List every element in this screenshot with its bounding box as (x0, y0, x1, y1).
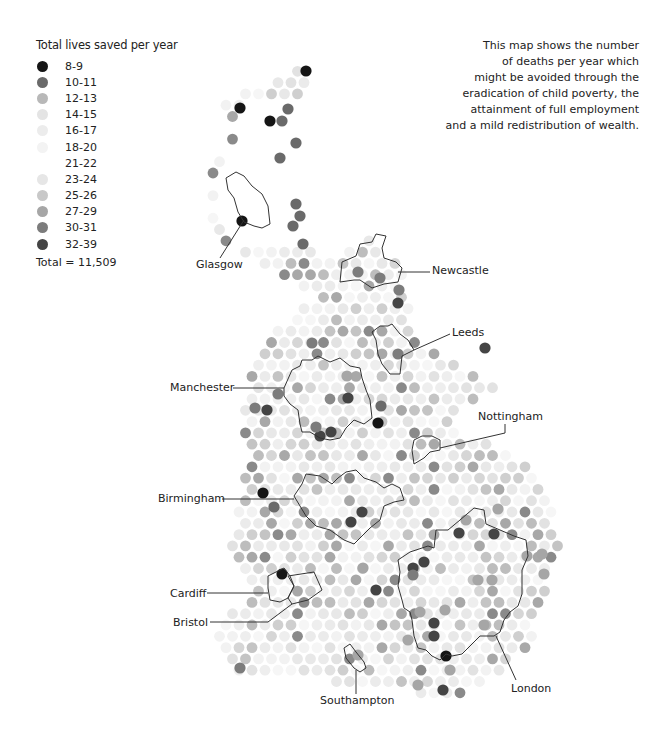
data-dot (299, 461, 310, 472)
data-dot (292, 315, 303, 326)
data-dot (325, 507, 336, 518)
data-dot (312, 620, 323, 631)
data-dot (344, 586, 355, 597)
data-dot (455, 371, 466, 382)
data-dot (416, 597, 427, 608)
data-dot (481, 484, 492, 495)
data-dot (318, 337, 329, 348)
data-dot (468, 394, 479, 405)
data-dot (500, 563, 511, 574)
data-dot (377, 529, 388, 540)
data-dot (247, 507, 258, 518)
data-dot (422, 495, 433, 506)
data-dot (422, 676, 433, 687)
data-dot (221, 620, 232, 631)
data-dot (414, 606, 425, 617)
data-dot (383, 382, 394, 393)
data-dot (440, 650, 451, 661)
data-dot (442, 507, 453, 518)
data-dot (409, 495, 420, 506)
data-dot (318, 450, 329, 461)
data-dot (338, 303, 349, 314)
data-dot (468, 642, 479, 653)
data-dot (526, 495, 537, 506)
data-dot (273, 77, 284, 88)
data-dot (325, 574, 336, 585)
data-dot (310, 421, 321, 432)
data-dot (305, 631, 316, 642)
data-dot (461, 495, 472, 506)
data-dot (370, 428, 381, 439)
data-dot (357, 608, 368, 619)
data-dot (260, 394, 271, 405)
data-dot (292, 89, 303, 100)
data-dot (442, 394, 453, 405)
data-dot (370, 382, 381, 393)
data-dot (290, 198, 301, 209)
data-dot (377, 371, 388, 382)
data-dot (364, 439, 375, 450)
data-dot (266, 360, 277, 371)
data-dot (286, 348, 297, 359)
data-dot (331, 382, 342, 393)
data-dot (364, 371, 375, 382)
data-dot (487, 450, 498, 461)
data-dot (318, 405, 329, 416)
data-dot (520, 597, 531, 608)
data-dot (357, 676, 368, 687)
data-dot (331, 450, 342, 461)
data-dot (396, 563, 407, 574)
data-dot (273, 552, 284, 563)
data-dot (461, 473, 472, 484)
data-dot (533, 507, 544, 518)
data-dot (377, 303, 388, 314)
data-dot (487, 586, 498, 597)
data-dot (418, 556, 429, 567)
data-dot (409, 473, 420, 484)
data-dot (292, 541, 303, 552)
data-dot (507, 620, 518, 631)
data-dot (377, 439, 388, 450)
data-dot (396, 473, 407, 484)
data-dot (416, 529, 427, 540)
data-dot (442, 461, 453, 472)
data-dot (312, 371, 323, 382)
data-dot (214, 156, 225, 167)
data-dot (461, 382, 472, 393)
data-dot (461, 450, 472, 461)
data-dot (344, 247, 355, 258)
data-dot (442, 552, 453, 563)
data-dot (520, 642, 531, 653)
data-dot (325, 665, 336, 676)
data-dot (383, 292, 394, 303)
glasgow-outline (226, 172, 270, 228)
data-dot (300, 65, 311, 76)
data-dot (318, 631, 329, 642)
data-dot (383, 450, 394, 461)
data-dot (266, 89, 277, 100)
data-dot (526, 608, 537, 619)
data-dot (513, 518, 524, 529)
data-dot (260, 371, 271, 382)
data-dot (533, 484, 544, 495)
data-dot (396, 382, 407, 393)
data-dot (208, 168, 219, 179)
data-dot (461, 586, 472, 597)
data-dot (266, 631, 277, 642)
data-dot (260, 642, 271, 653)
data-dot (299, 620, 310, 631)
data-dot (299, 642, 310, 653)
data-dot (364, 348, 375, 359)
data-dot (422, 405, 433, 416)
data-dot (383, 676, 394, 687)
data-dot (273, 439, 284, 450)
data-dot (429, 507, 440, 518)
data-dot (318, 382, 329, 393)
data-dot (416, 461, 427, 472)
data-dot (286, 507, 297, 518)
data-dot (247, 597, 258, 608)
data-dot (468, 665, 479, 676)
data-dot (260, 348, 271, 359)
data-dot (312, 394, 323, 405)
data-dot (331, 518, 342, 529)
